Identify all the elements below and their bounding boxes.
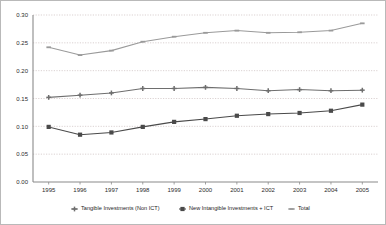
data-point-marker	[141, 125, 145, 129]
y-axis-tick-label: 0.15	[16, 96, 28, 102]
data-point-marker	[180, 207, 184, 211]
legend-label: Total	[298, 205, 310, 211]
data-point-marker	[47, 125, 51, 129]
series-group	[47, 103, 365, 137]
legend-item: Tangible Investments (Non ICT)	[71, 205, 160, 211]
data-point-marker	[172, 120, 176, 124]
y-axis-tick-label: 0.00	[16, 179, 28, 185]
x-axis-tick-label: 2004	[324, 187, 338, 193]
x-axis-tick-label: 1996	[73, 187, 87, 193]
data-point-marker	[329, 109, 333, 113]
y-axis-tick-label: 0.30	[16, 12, 28, 18]
x-axis-tick-label: 2002	[262, 187, 276, 193]
legend-item: New Intangible Investments + ICT	[179, 205, 274, 211]
data-point-marker	[297, 111, 301, 115]
series-group	[46, 23, 364, 55]
x-axis-tick-label: 1999	[167, 187, 181, 193]
y-axis-tick-label: 0.05	[16, 151, 28, 157]
y-axis-tick-label: 0.25	[16, 40, 28, 46]
series-group	[46, 85, 364, 100]
legend-label: New Intangible Investments + ICT	[189, 205, 274, 211]
data-point-marker	[360, 103, 364, 107]
x-axis-tick-label: 2001	[230, 187, 244, 193]
legend-item: Total	[288, 205, 310, 211]
x-axis-tick-label: 1998	[136, 187, 150, 193]
data-point-marker	[109, 130, 113, 134]
line-chart: 0.000.050.100.150.200.250.30199519961997…	[1, 1, 386, 225]
x-axis-tick-label: 2000	[199, 187, 213, 193]
data-point-marker	[266, 112, 270, 116]
y-axis-tick-label: 0.10	[16, 124, 28, 130]
x-axis-tick-label: 1997	[105, 187, 119, 193]
x-axis-tick-label: 2005	[356, 187, 370, 193]
chart-container: 0.000.050.100.150.200.250.30199519961997…	[0, 0, 386, 225]
data-point-marker	[203, 117, 207, 121]
x-axis-tick-label: 1995	[42, 187, 56, 193]
data-point-marker	[235, 114, 239, 118]
y-axis-tick-label: 0.20	[16, 68, 28, 74]
series-line	[49, 23, 363, 55]
x-axis-tick-label: 2003	[293, 187, 307, 193]
data-point-marker	[78, 133, 82, 137]
legend-label: Tangible Investments (Non ICT)	[81, 205, 160, 211]
